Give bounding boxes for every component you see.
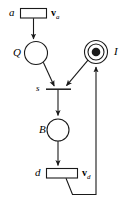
vector-v-d-subscript: d (87, 173, 91, 181)
petri-net-diagram: a va Q I s B d vd (0, 0, 132, 205)
arc-Q-to-s (43, 62, 54, 86)
place-I-token (92, 48, 101, 57)
transition-a-box (21, 9, 47, 19)
label-departure-rate-vector: vd (82, 168, 91, 181)
arc-I-to-s (67, 60, 89, 85)
place-Q (25, 42, 48, 65)
transition-d-box (47, 169, 78, 179)
vector-v-a-subscript: a (56, 13, 60, 21)
label-place-I: I (114, 46, 118, 57)
place-B (47, 119, 69, 141)
label-arrival-rate-vector: va (51, 8, 60, 21)
petri-net-canvas (0, 0, 132, 205)
label-transition-s: s (36, 84, 40, 93)
label-transition-d: d (35, 167, 41, 178)
label-transition-a: a (9, 7, 15, 18)
label-place-Q: Q (13, 47, 21, 58)
label-place-B: B (39, 124, 46, 135)
